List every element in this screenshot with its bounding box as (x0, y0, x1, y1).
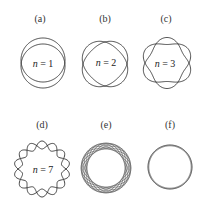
n-label-a: n = 1 (33, 58, 54, 69)
panel-label-b: (b) (99, 13, 111, 25)
panel-label-e: (e) (100, 119, 111, 131)
n-label-b: n = 2 (96, 57, 117, 68)
mode-curve (148, 145, 192, 189)
n-label-d: n = 7 (33, 164, 54, 175)
n-label-c: n = 3 (155, 58, 176, 69)
panel-label-c: (c) (160, 13, 171, 25)
mode-shape-circle (148, 145, 192, 189)
panel-label-f: (f) (165, 119, 175, 131)
mode-shape-superposition (81, 143, 131, 193)
mode-shapes-figure: (a) (b) (c) (d) (e) (f) n = 1 n = 2 n = … (0, 0, 208, 202)
panel-label-a: (a) (34, 13, 45, 25)
mode-curve (149, 146, 191, 188)
panel-label-d: (d) (36, 119, 48, 131)
